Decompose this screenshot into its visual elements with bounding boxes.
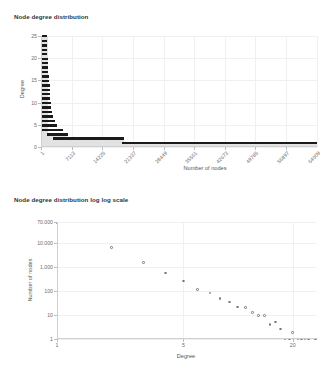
y-tick-label: 10 xyxy=(47,312,53,318)
plot-background xyxy=(41,36,317,147)
data-marker xyxy=(42,40,48,42)
chart-panel-node-degree-loglog: Node degree distribution log log scale xyxy=(0,187,329,373)
scatter-point xyxy=(251,311,254,314)
x-tick-label: 14225 xyxy=(92,150,106,164)
data-marker xyxy=(42,66,49,68)
data-marker xyxy=(42,89,50,91)
y-axis-line xyxy=(41,36,42,147)
data-marker xyxy=(42,97,50,99)
gridline-horizontal xyxy=(57,315,316,316)
gridline-horizontal xyxy=(41,147,317,148)
x-tick-label: 7113 xyxy=(64,150,76,162)
data-marker xyxy=(42,71,49,73)
y-tick xyxy=(38,80,41,81)
data-marker xyxy=(47,133,69,136)
y-axis-title-bottom: Number of nodes xyxy=(27,252,33,308)
scatter-point xyxy=(274,321,277,324)
data-marker xyxy=(42,44,48,46)
x-tick xyxy=(255,147,256,150)
gridline-vertical xyxy=(102,36,103,147)
gridline-horizontal xyxy=(41,58,317,59)
y-tick-label: 1 xyxy=(50,336,53,342)
data-marker xyxy=(53,137,123,140)
y-tick-label: 1.000 xyxy=(40,264,53,270)
scatter-point xyxy=(263,314,266,317)
y-axis-title-top: Degree xyxy=(19,69,25,109)
y-tick xyxy=(38,103,41,104)
data-marker xyxy=(42,120,55,122)
y-tick-label: 10 xyxy=(31,100,37,106)
x-tick-label: 21337 xyxy=(123,150,137,164)
y-tick-label: 0 xyxy=(34,144,37,150)
y-tick xyxy=(38,58,41,59)
x-axis-title-top: Number of nodes xyxy=(184,165,227,171)
x-tick-label: 20 xyxy=(290,342,296,348)
gridline-horizontal xyxy=(41,36,317,37)
x-tick-label: 1 xyxy=(39,150,45,156)
scatter-point xyxy=(279,328,282,331)
x-tick-label: 56897 xyxy=(276,150,290,164)
y-tick-label: 15 xyxy=(31,77,37,83)
scatter-point xyxy=(236,306,239,309)
data-marker xyxy=(42,115,53,117)
y-tick xyxy=(54,243,57,244)
y-tick-label: 20 xyxy=(31,55,37,61)
gridline-horizontal xyxy=(41,80,317,81)
y-tick xyxy=(54,315,57,316)
gridline-horizontal xyxy=(57,339,316,340)
data-marker xyxy=(42,93,50,95)
data-marker xyxy=(42,58,48,60)
chart-panel-node-degree-distribution: Node degree distribution xyxy=(0,0,329,187)
gridline-vertical xyxy=(72,36,73,147)
data-marker xyxy=(42,62,48,64)
y-tick xyxy=(38,36,41,37)
gridline-vertical xyxy=(255,36,256,147)
y-tick xyxy=(54,267,57,268)
gridline-vertical xyxy=(164,36,165,147)
y-tick-label: 10.000 xyxy=(37,240,53,246)
gridline-vertical xyxy=(317,36,318,147)
x-tick-label: 1 xyxy=(56,342,59,348)
data-marker xyxy=(42,53,48,55)
data-marker xyxy=(42,124,57,126)
x-axis-line xyxy=(41,146,317,147)
x-tick-label: 28449 xyxy=(153,150,167,164)
chart-title-top: Node degree distribution xyxy=(14,13,88,20)
y-tick xyxy=(38,125,41,126)
x-tick-label: 5 xyxy=(182,342,185,348)
data-marker xyxy=(122,142,317,145)
gridline-vertical xyxy=(194,36,195,147)
gridline-vertical xyxy=(286,36,287,147)
plot-area-bar-chart: 0 5 10 15 20 25 1 7113 14225 21337 28449… xyxy=(41,36,317,147)
data-marker xyxy=(42,102,51,104)
y-tick xyxy=(54,222,57,223)
x-tick-label: 49785 xyxy=(245,150,259,164)
x-tick-label: 42673 xyxy=(215,150,229,164)
x-tick-label: 35561 xyxy=(184,150,198,164)
scatter-point xyxy=(257,314,260,317)
x-axis-title-bottom: Degree xyxy=(177,353,195,359)
x-tick-label: 64009 xyxy=(307,150,321,164)
y-tick xyxy=(54,291,57,292)
gridline-horizontal xyxy=(57,243,316,244)
gridline-horizontal xyxy=(41,103,317,104)
plot-area-scatter-chart: 1 10 100 1.000 10.000 70.000 1 5 20 xyxy=(57,222,316,339)
scatter-point xyxy=(110,246,113,249)
gridline-vertical xyxy=(225,36,226,147)
data-marker xyxy=(42,111,52,113)
data-marker xyxy=(42,35,48,37)
y-tick-label: 100 xyxy=(44,288,53,294)
gridline-vertical xyxy=(133,36,134,147)
gridline-horizontal xyxy=(41,125,317,126)
scatter-point xyxy=(142,261,145,264)
scatter-point xyxy=(291,331,294,334)
scatter-point xyxy=(196,288,199,291)
data-marker xyxy=(42,129,63,131)
gridline-horizontal xyxy=(57,222,316,223)
data-marker xyxy=(42,75,49,77)
y-tick-label: 70.000 xyxy=(37,219,53,225)
data-marker xyxy=(42,49,48,51)
x-axis-line xyxy=(57,338,316,339)
y-tick-label: 5 xyxy=(34,122,37,128)
plot-background xyxy=(57,222,316,339)
